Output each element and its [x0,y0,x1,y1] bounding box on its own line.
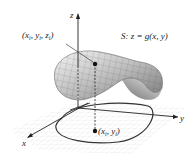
z-axis-arrow-icon [76,13,80,19]
x-axis-label: x [21,138,26,148]
domain-point-label: (xi, yi) [98,126,120,137]
saddle-surface [54,51,162,100]
surface-point [93,62,97,66]
surface-point-label: (xi, yi, zi) [22,30,54,41]
surface-equation-label: S: z = g(x, y) [121,31,168,41]
z-axis-label: z [69,10,74,20]
y-axis-label: y [179,113,184,123]
surface-diagram: z y x S: z = g(x, y) (xi, yi, zi) (xi, y… [0,0,186,158]
domain-point [93,129,97,133]
